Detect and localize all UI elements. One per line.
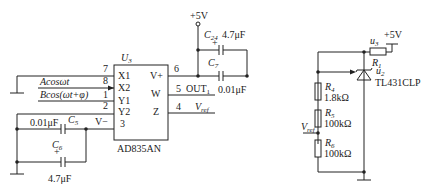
- c24-value: 4.7μF: [222, 29, 246, 40]
- schematic: U3 AD835AN X1 X2 Y1 Y2 3 V+ W Z 7 8 1 2 …: [0, 0, 427, 193]
- supply-terminal: [196, 22, 200, 26]
- x2-arrow-icon: [108, 86, 114, 91]
- r5-value: 100kΩ: [324, 118, 351, 129]
- vref-label-right: Vref: [301, 121, 316, 134]
- c5-ref: C5: [68, 114, 79, 127]
- pin-num-4: 4: [176, 101, 181, 112]
- r1-resistor: [370, 48, 386, 55]
- u3-label: u3: [370, 35, 379, 48]
- pin-name-w: W: [151, 88, 161, 99]
- pin-name-x1: X1: [118, 70, 130, 81]
- pin-name-x2: X2: [118, 82, 130, 93]
- r6-value: 100kΩ: [324, 148, 351, 159]
- out-label: OUT1: [186, 83, 211, 96]
- pin-num-3: 3: [120, 118, 125, 129]
- pin-num-5: 5: [176, 83, 181, 94]
- multiplier-circuit: U3 AD835AN X1 X2 Y1 Y2 3 V+ W Z 7 8 1 2 …: [10, 10, 249, 184]
- v-minus-label: V−: [95, 116, 108, 127]
- x-input-signal: Acosωt: [39, 76, 69, 87]
- supply-label-right: +5V: [384, 29, 403, 40]
- y-input-signal: Bcos(ωt+φ): [40, 89, 89, 101]
- pin-num-1: 1: [103, 89, 108, 100]
- pin-num-8: 8: [103, 75, 108, 86]
- pin-name-z: Z: [153, 106, 159, 117]
- r4-value: 1.8kΩ: [324, 92, 349, 103]
- chip-ref: U3: [121, 52, 132, 65]
- reference-circuit: +5V u3 R1 u2 TL431CLP R4 1.8kΩ R5 100kΩ …: [301, 29, 421, 180]
- pin-name-vplus: V+: [150, 70, 163, 81]
- chip-part-label: AD835AN: [117, 143, 161, 154]
- vref-label-left: Vref: [195, 101, 210, 114]
- pin-num-7: 7: [103, 63, 108, 74]
- c6-value: 4.7μF: [48, 173, 72, 184]
- pin-num-2: 2: [103, 100, 108, 111]
- supply-label-left: +5V: [190, 10, 209, 21]
- pin-name-y1: Y1: [118, 95, 130, 106]
- regulator-part-label: TL431CLP: [375, 77, 421, 88]
- c7-value: 0.01μF: [218, 84, 247, 95]
- pin-name-y2: Y2: [118, 106, 130, 117]
- ref-arrow-icon: [350, 70, 356, 75]
- c7-ref: C7: [208, 57, 219, 70]
- c24-ref: C24: [204, 29, 218, 42]
- pin-num-6: 6: [174, 63, 179, 74]
- c5-value: 0.01μF: [30, 117, 59, 128]
